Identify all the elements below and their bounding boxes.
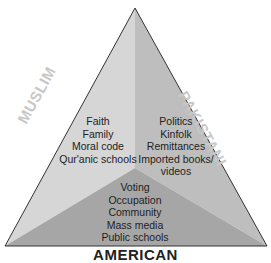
list-item: Moral code [56,140,140,153]
american-list: Voting Occupation Community Mass media P… [90,181,180,244]
list-item: Faith [56,115,140,128]
list-item: Qur'anic schools [56,153,140,166]
list-item: Mass media [90,219,180,232]
list-item: Kinfolk [136,128,216,141]
list-item: Imported books/ [136,153,216,166]
list-item: videos [136,165,216,178]
list-item: Remittances [136,140,216,153]
muslim-list: Faith Family Moral code Qur'anic schools [56,115,140,165]
list-item: Politics [136,115,216,128]
list-item: Family [56,128,140,141]
pakistani-list: Politics Kinfolk Remittances Imported bo… [136,115,216,178]
list-item: Community [90,206,180,219]
list-item: Occupation [90,194,180,207]
american-label: AMERICAN [0,246,271,263]
list-item: Public schools [90,231,180,244]
list-item: Voting [90,181,180,194]
